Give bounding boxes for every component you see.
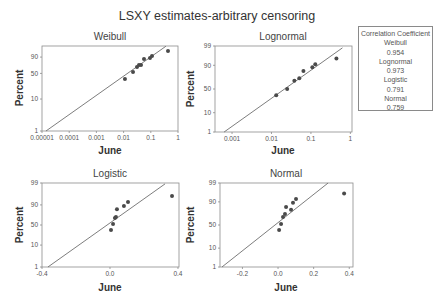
y-tick-label: 1 — [207, 128, 211, 135]
x-tick-label: 0.01 — [265, 135, 278, 142]
data-point — [114, 215, 118, 219]
data-point — [170, 194, 174, 198]
data-point — [291, 201, 295, 205]
data-point — [292, 79, 296, 83]
y-tick-label: 50 — [204, 85, 212, 92]
legend-lognormal-value: 0.973 — [359, 66, 432, 75]
data-point — [109, 228, 113, 232]
data-point — [342, 191, 346, 195]
y-tick-label: 90 — [31, 201, 39, 208]
data-point — [150, 54, 154, 58]
lognormal-plot-title: Lognormal — [259, 31, 306, 42]
y-tick-label: 99 — [31, 179, 39, 186]
x-tick-label: 0.1 — [306, 135, 315, 142]
weibull-x-axis-label: June — [98, 145, 122, 156]
x-tick-label: 1 — [176, 134, 180, 141]
data-point — [142, 57, 146, 61]
data-point — [310, 65, 314, 69]
y-tick-label: 10 — [209, 244, 217, 251]
logistic-plot: Logistic June Percent -0.40.00.411050909… — [14, 168, 183, 293]
data-point — [297, 76, 301, 80]
x-tick-label: 0.4 — [345, 270, 354, 277]
legend-weibull-value: 0.954 — [359, 48, 432, 57]
x-tick-label: 0.0 — [274, 270, 283, 277]
data-point — [285, 87, 289, 91]
data-point — [139, 63, 143, 67]
normal-y-axis-label: Percent — [185, 206, 196, 243]
logistic-y-axis-label: Percent — [14, 206, 25, 243]
data-point — [166, 49, 170, 53]
weibull-y-axis-label: Percent — [14, 69, 25, 106]
x-tick-label: 0.4 — [173, 270, 182, 277]
weibull-fit-line — [46, 46, 166, 131]
data-point — [111, 222, 115, 226]
x-tick-label: 0.0 — [105, 270, 114, 277]
data-point — [301, 69, 305, 73]
x-tick-label: 0.0001 — [59, 134, 79, 141]
legend-lognormal-label: Lognormal — [359, 57, 432, 66]
data-point — [122, 204, 126, 208]
lognormal-fit-line — [224, 48, 342, 132]
data-point — [274, 93, 278, 97]
y-tick-label: 1 — [34, 263, 38, 270]
x-tick-label: 1 — [349, 135, 353, 142]
y-tick-label: 50 — [31, 221, 39, 228]
weibull-plot-area — [42, 46, 178, 131]
data-point — [284, 205, 288, 209]
correlation-legend: Correlation Coefficient Weibull 0.954 Lo… — [358, 26, 433, 111]
y-tick-label: 90 — [204, 62, 212, 69]
lognormal-plot-area — [215, 46, 352, 132]
y-tick-label: 10 — [204, 109, 212, 116]
y-tick-label: 99 — [204, 42, 212, 49]
data-point — [131, 70, 135, 74]
normal-plot-area — [220, 183, 353, 267]
weibull-plot: Weibull June Percent 0.000010.00010.0010… — [14, 31, 180, 156]
y-tick-label: 1 — [34, 127, 38, 134]
data-point — [283, 212, 287, 216]
data-point — [115, 207, 119, 211]
x-tick-label: 0.00001 — [30, 134, 54, 141]
normal-fit-line — [222, 183, 328, 267]
logistic-fit-line — [48, 184, 165, 267]
legend-weibull-label: Weibull — [359, 38, 432, 47]
x-tick-label: 0.1 — [146, 134, 155, 141]
lognormal-plot: Lognormal June Percent 0.0010.010.111105… — [185, 31, 353, 156]
data-point — [126, 200, 130, 204]
data-point — [334, 57, 338, 61]
x-tick-label: 0.01 — [117, 134, 130, 141]
y-tick-label: 10 — [31, 241, 39, 248]
lognormal-y-axis-label: Percent — [185, 70, 196, 107]
normal-x-axis-label: June — [274, 282, 298, 293]
legend-normal-label: Normal — [359, 94, 432, 103]
logistic-x-axis-label: June — [98, 282, 122, 293]
data-point — [294, 197, 298, 201]
logistic-plot-title: Logistic — [93, 168, 127, 179]
data-point — [277, 228, 281, 232]
y-tick-label: 50 — [31, 70, 39, 77]
legend-heading: Correlation Coefficient — [359, 29, 432, 38]
logistic-plot-area — [42, 183, 179, 267]
data-point — [313, 62, 317, 66]
legend-normal-value: 0.759 — [359, 103, 432, 112]
x-tick-label: 0.001 — [88, 134, 105, 141]
data-point — [289, 208, 293, 212]
x-tick-label: -0.4 — [36, 270, 48, 277]
data-point — [279, 222, 283, 226]
y-tick-label: 90 — [209, 198, 217, 205]
weibull-plot-title: Weibull — [94, 31, 127, 42]
x-tick-label: -0.2 — [237, 270, 249, 277]
lognormal-x-axis-label: June — [271, 145, 295, 156]
y-tick-label: 50 — [209, 221, 217, 228]
figure-title: LSXY estimates-arbitrary censoring — [119, 9, 315, 23]
legend-logistic-label: Logistic — [359, 75, 432, 84]
x-tick-label: 0.2 — [309, 270, 318, 277]
normal-plot-title: Normal — [270, 168, 302, 179]
y-tick-label: 1 — [212, 263, 216, 270]
normal-plot: Normal June Percent -0.20.00.20.41105090… — [185, 168, 354, 293]
legend-logistic-value: 0.791 — [359, 85, 432, 94]
data-point — [123, 77, 127, 81]
y-tick-label: 99 — [209, 179, 217, 186]
y-tick-label: 90 — [31, 53, 39, 60]
y-tick-label: 10 — [31, 95, 39, 102]
x-tick-label: 0.001 — [224, 135, 241, 142]
